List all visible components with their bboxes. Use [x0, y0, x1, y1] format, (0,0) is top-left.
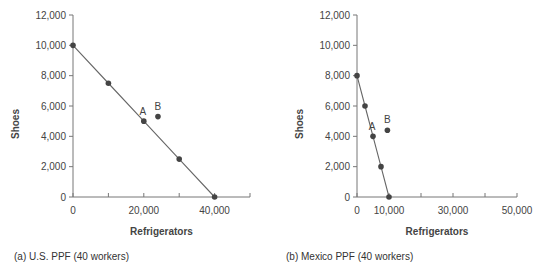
y-tick-label: 4,000	[325, 131, 350, 142]
ppf-point	[176, 156, 182, 162]
y-tick-label: 2,000	[41, 161, 66, 172]
y-tick-label: 10,000	[35, 40, 66, 51]
x-tick-label: 0	[70, 205, 76, 216]
x-tick-label: 10,000	[374, 205, 405, 216]
y-axis-label: Shoes	[294, 109, 305, 139]
y-tick-label: 12,000	[319, 10, 350, 21]
point-label-a: A	[139, 106, 146, 117]
ppf-point	[70, 43, 76, 49]
ppf-point	[141, 118, 147, 124]
y-tick-label: 6,000	[325, 101, 350, 112]
y-tick-label: 8,000	[41, 70, 66, 81]
x-tick-label: 0	[354, 205, 360, 216]
y-tick-label: 12,000	[35, 10, 66, 21]
ppf-point	[106, 80, 112, 86]
y-tick-label: 4,000	[41, 131, 66, 142]
y-tick-label: 0	[60, 192, 66, 203]
point-label-a: A	[369, 121, 376, 132]
y-tick-label: 0	[344, 192, 350, 203]
us-ppf-caption: (a) U.S. PPF (40 workers)	[14, 251, 129, 262]
ppf-point	[212, 194, 218, 200]
ppf-point	[362, 103, 368, 109]
mexico-ppf-plot: 02,0004,0006,0008,00010,00012,000010,000…	[270, 0, 543, 250]
y-axis-label: Shoes	[10, 109, 21, 139]
y-tick-label: 8,000	[325, 70, 350, 81]
ppf-point	[354, 73, 360, 79]
x-axis-label: Refrigerators	[406, 226, 469, 237]
mexico-ppf-chart: 02,0004,0006,0008,00010,00012,000010,000…	[270, 0, 543, 254]
x-tick-label: 20,000	[129, 205, 160, 216]
point-b	[385, 127, 391, 133]
point-label-b: B	[155, 101, 162, 112]
mexico-ppf-caption: (b) Mexico PPF (40 workers)	[286, 251, 413, 262]
x-axis-label: Refrigerators	[130, 226, 193, 237]
y-tick-label: 2,000	[325, 161, 350, 172]
ppf-point	[378, 164, 384, 170]
x-tick-label: 30,000	[438, 205, 469, 216]
y-tick-label: 10,000	[319, 40, 350, 51]
ppf-point	[370, 134, 376, 140]
ppf-point	[386, 194, 392, 200]
x-tick-label: 50,000	[502, 205, 533, 216]
x-tick-label: 40,000	[199, 205, 230, 216]
point-b	[155, 114, 161, 120]
us-ppf-chart: 02,0004,0006,0008,00010,00012,000020,000…	[0, 0, 270, 254]
y-tick-label: 6,000	[41, 101, 66, 112]
point-label-b: B	[384, 114, 391, 125]
us-ppf-plot: 02,0004,0006,0008,00010,00012,000020,000…	[0, 0, 270, 250]
